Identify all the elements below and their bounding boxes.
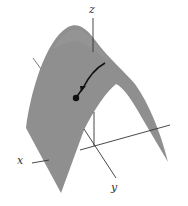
figure-canvas	[0, 0, 188, 206]
y-axis	[84, 129, 116, 178]
start-point-dot	[73, 95, 79, 101]
y-axis-label: y	[111, 182, 117, 193]
surface-figure: z x y	[0, 0, 188, 206]
z-axis-label: z	[89, 4, 95, 15]
x-axis-back-segment	[33, 58, 41, 69]
x-axis-label: x	[17, 155, 23, 166]
